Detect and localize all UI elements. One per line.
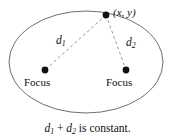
caption-plus-sign: +	[54, 122, 66, 134]
ellipse-outline	[9, 11, 163, 113]
focus-right-label: Focus	[106, 77, 132, 88]
distance-line-d1	[45, 15, 106, 70]
caption-tail-text: is constant.	[76, 122, 131, 134]
focus-left-dot	[42, 67, 49, 74]
distance-line-d2	[106, 15, 126, 70]
distance-d1-label: d1	[56, 35, 66, 48]
point-xy-dot	[103, 12, 110, 19]
figure-caption: d1 + d2 is constant.	[0, 122, 175, 136]
ellipse-diagram-svg	[0, 0, 175, 139]
focus-right-dot	[123, 67, 130, 74]
d1-subscript: 1	[62, 39, 66, 48]
ellipse-figure: (x, y) d1 d2 Focus Focus d1 + d2 is cons…	[0, 0, 175, 139]
focus-left-label: Focus	[24, 77, 50, 88]
point-xy-label: (x, y)	[113, 7, 136, 18]
d2-subscript: 2	[132, 41, 136, 50]
distance-d2-label: d2	[126, 37, 136, 50]
